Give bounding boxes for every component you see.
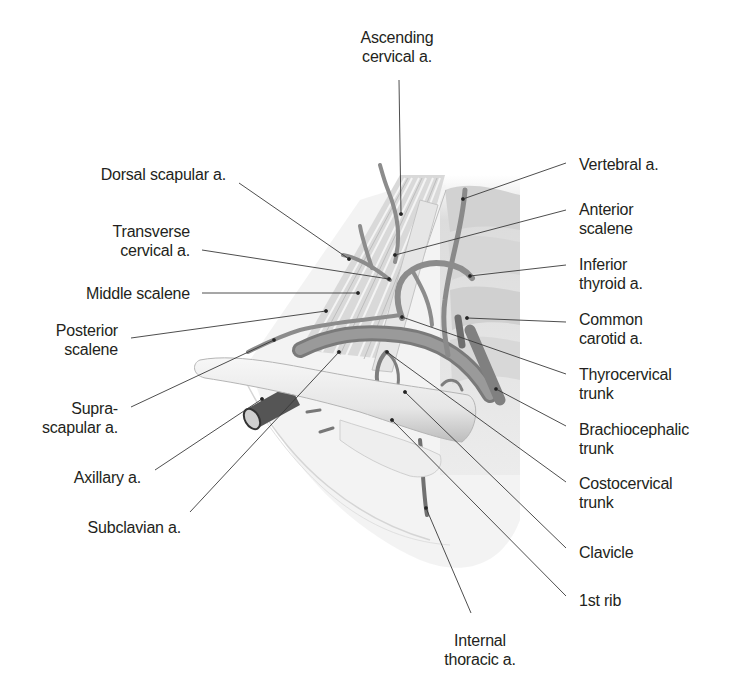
leader-dot-vertebral: [461, 197, 464, 200]
leader-dot-transverse-cervical: [387, 277, 390, 280]
label-line: Inferior: [579, 255, 643, 274]
label-line: scapular a.: [42, 418, 118, 437]
label-line: Supra-: [42, 399, 118, 418]
label-line: Posterior: [56, 321, 118, 340]
label-line: Brachiocephalic: [579, 420, 689, 439]
label-line: trunk: [579, 493, 672, 512]
label-thyrocervical: Thyrocervicaltrunk: [579, 365, 672, 403]
label-line: 1st rib: [579, 591, 621, 610]
label-line: thyroid a.: [579, 274, 643, 293]
leader-dot-internal-thoracic: [424, 506, 427, 509]
label-line: scalene: [579, 219, 633, 238]
leader-dot-posterior-scalene: [324, 309, 327, 312]
leader-axillary: [155, 399, 262, 470]
label-line: trunk: [579, 384, 672, 403]
leader-dot-brachiocephalic: [494, 387, 497, 390]
label-line: Middle scalene: [86, 284, 190, 303]
label-inferior-thyroid: Inferiorthyroid a.: [579, 255, 643, 293]
leader-dot-middle-scalene: [356, 291, 359, 294]
leader-dot-subclavian: [337, 350, 340, 353]
leader-dot-costocervical: [385, 350, 388, 353]
leader-dot-axillary: [260, 397, 263, 400]
leader-dorsal-scapular: [239, 183, 349, 259]
label-line: Anterior: [579, 200, 633, 219]
label-costocervical: Costocervicaltrunk: [579, 474, 672, 512]
label-common-carotid: Commoncarotid a.: [579, 310, 643, 348]
label-clavicle: Clavicle: [579, 543, 633, 562]
leader-dot-thyrocervical: [400, 315, 403, 318]
label-first-rib: 1st rib: [579, 591, 621, 610]
label-line: Internal: [420, 631, 540, 650]
leader-dot-first-rib: [390, 418, 393, 421]
label-line: scalene: [56, 340, 118, 359]
leader-dot-clavicle: [403, 390, 406, 393]
label-axillary: Axillary a.: [74, 468, 141, 487]
label-line: Subclavian a.: [88, 518, 181, 537]
label-subclavian: Subclavian a.: [88, 518, 181, 537]
label-middle-scalene: Middle scalene: [86, 284, 190, 303]
label-ascending-cervical: Ascendingcervical a.: [337, 28, 457, 66]
leader-dot-common-carotid: [465, 316, 468, 319]
label-line: cervical a.: [337, 47, 457, 66]
label-posterior-scalene: Posteriorscalene: [56, 321, 118, 359]
label-line: carotid a.: [579, 329, 643, 348]
label-line: thoracic a.: [420, 650, 540, 669]
label-line: Transverse: [113, 222, 190, 241]
label-line: Clavicle: [579, 543, 633, 562]
label-brachiocephalic: Brachiocephalictrunk: [579, 420, 689, 458]
leader-dot-anterior-scalene: [393, 253, 396, 256]
label-line: trunk: [579, 439, 689, 458]
label-line: Vertebral a.: [579, 155, 658, 174]
label-line: Thyrocervical: [579, 365, 672, 384]
leader-dot-suprascapular: [272, 338, 275, 341]
label-line: Costocervical: [579, 474, 672, 493]
leader-dot-inferior-thyroid: [468, 274, 471, 277]
label-line: Common: [579, 310, 643, 329]
label-internal-thoracic: Internalthoracic a.: [420, 631, 540, 669]
leader-dot-dorsal-scapular: [347, 257, 350, 260]
label-vertebral: Vertebral a.: [579, 155, 658, 174]
label-anterior-scalene: Anteriorscalene: [579, 200, 633, 238]
label-line: Dorsal scapular a.: [101, 165, 226, 184]
label-line: Axillary a.: [74, 468, 141, 487]
label-dorsal-scapular: Dorsal scapular a.: [101, 165, 226, 184]
leader-dot-ascending-cervical: [399, 212, 402, 215]
anatomy-figure: Ascendingcervical a.Dorsal scapular a.Tr…: [0, 0, 738, 683]
label-line: Ascending: [337, 28, 457, 47]
label-transverse-cervical: Transversecervical a.: [113, 222, 190, 260]
label-suprascapular: Supra-scapular a.: [42, 399, 118, 437]
label-line: cervical a.: [113, 241, 190, 260]
